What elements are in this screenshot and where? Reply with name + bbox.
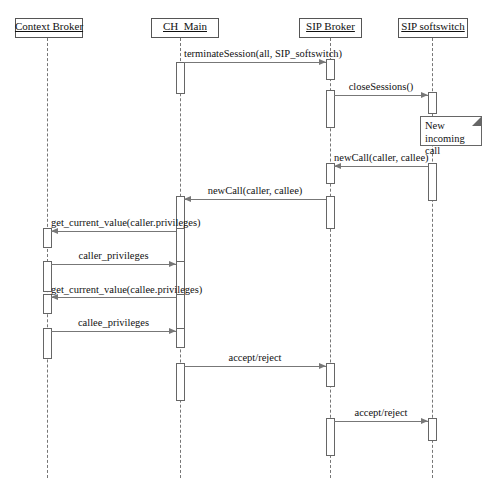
participant-label-ch-main: CH_Main — [163, 20, 207, 32]
activation-bar-sip-broker — [326, 196, 335, 229]
message-line-msg-callee-privileges — [51, 331, 176, 332]
activation-bar-ch-main — [176, 62, 185, 94]
participant-box-sip-softswitch[interactable]: SIP softswitch — [398, 18, 468, 38]
activation-bar-sip-softswitch — [428, 418, 437, 441]
message-label-msg-new-call-2: newCall(caller, callee) — [184, 185, 326, 197]
message-line-msg-close-sessions — [334, 95, 428, 96]
activation-bar-ch-main — [176, 328, 185, 348]
activation-bar-sip-broker — [326, 59, 335, 80]
message-label-msg-terminate-session: terminateSession(all, SIP_softswitch) — [184, 48, 326, 60]
message-label-msg-callee-privileges: callee_privileges — [51, 317, 176, 329]
message-line-msg-terminate-session — [184, 62, 326, 63]
message-line-msg-get-caller-priv — [51, 231, 176, 232]
note-box: New incoming call — [420, 116, 482, 146]
message-line-msg-accept-reject-2 — [334, 421, 428, 422]
message-line-msg-caller-privileges — [51, 264, 176, 265]
message-label-msg-close-sessions: closeSessions() — [334, 81, 428, 93]
activation-bar-ch-main — [176, 363, 185, 401]
message-label-msg-get-caller-priv: get_current_value(caller.privileges) — [51, 217, 176, 229]
activation-bar-context-broker — [43, 328, 52, 359]
activation-bar-sip-softswitch — [428, 163, 437, 201]
note-text: New incoming call — [425, 120, 465, 156]
message-line-msg-new-call-2 — [184, 199, 326, 200]
message-line-msg-new-call-1 — [334, 166, 428, 167]
message-label-msg-caller-privileges: caller_privileges — [51, 250, 176, 262]
message-line-msg-accept-reject-1 — [184, 366, 326, 367]
activation-bar-sip-broker — [326, 363, 335, 387]
lifeline-context-broker — [47, 38, 48, 478]
participant-label-sip-softswitch: SIP softswitch — [401, 20, 464, 32]
sequence-diagram-canvas: terminateSession(all, SIP_softswitch)clo… — [0, 0, 485, 490]
message-line-msg-get-callee-priv — [51, 297, 176, 298]
note-folded-corner-icon — [472, 117, 481, 126]
participant-label-context-broker: Context Broker — [15, 20, 83, 32]
message-label-msg-accept-reject-1: accept/reject — [184, 352, 326, 364]
activation-bar-sip-broker — [326, 418, 335, 456]
message-label-msg-accept-reject-2: accept/reject — [334, 407, 428, 419]
activation-bar-sip-softswitch — [428, 92, 437, 114]
message-label-msg-get-callee-priv: get_current_value(callee.privileges) — [51, 284, 176, 296]
message-label-msg-new-call-1: newCall(caller, callee) — [334, 152, 428, 164]
participant-box-sip-broker[interactable]: SIP Broker — [299, 18, 362, 38]
participant-box-ch-main[interactable]: CH_Main — [151, 18, 219, 38]
participant-box-context-broker[interactable]: Context Broker — [15, 18, 83, 38]
participant-label-sip-broker: SIP Broker — [306, 20, 355, 32]
